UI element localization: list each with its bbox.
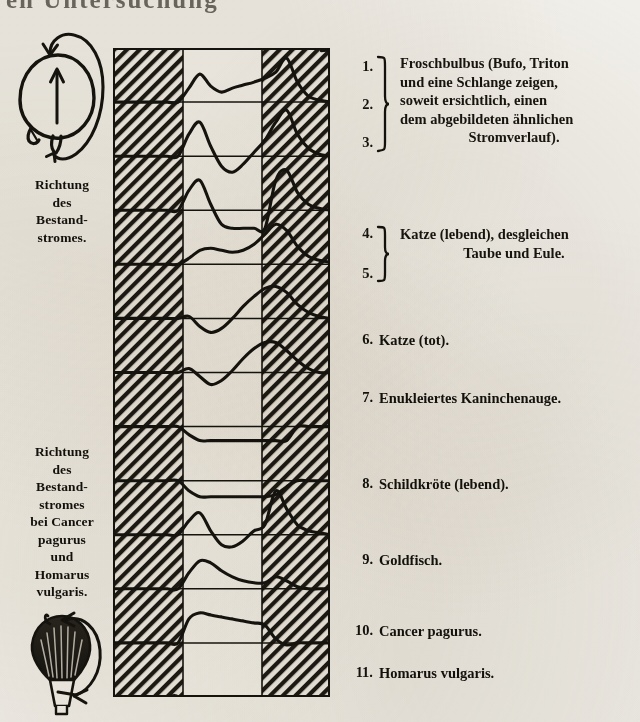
label-text: Goldfisch. (379, 551, 442, 570)
label-number: 11. (331, 664, 373, 681)
caption-line: Homarus (2, 566, 122, 584)
label-number: 4. (347, 225, 373, 242)
label-text: Cancer pagurus. (379, 622, 482, 641)
caption-line: vulgaris. (2, 583, 122, 601)
label-number: 8. (347, 475, 373, 492)
caption-line: Bestand- (2, 478, 122, 496)
species-label-list: 1. 2. 3. Froschbulbus (Bufo, Triton und … (347, 48, 640, 698)
crustacean-eye-current-diagram (8, 600, 116, 722)
label-number: 10. (331, 622, 373, 639)
caption-direction-standing-current-crustacea: Richtung des Bestand- stromes bei Cancer… (2, 443, 122, 601)
label-text-line: und eine Schlange zeigen, (400, 73, 628, 92)
caption-line: und (2, 548, 122, 566)
caption-line: Richtung (2, 176, 122, 194)
label-text-line: Froschbulbus (Bufo, Triton (400, 54, 628, 73)
caption-line: pagurus (2, 531, 122, 549)
label-number: 1. (347, 58, 373, 75)
caption-line: des (2, 194, 122, 212)
label-text: Katze (tot). (379, 331, 449, 350)
label-text: Schildkröte (lebend). (379, 475, 509, 494)
label-number: 7. (347, 389, 373, 406)
label-text-line: Stromverlauf). (400, 128, 628, 147)
label-text-line: Taube und Eule. (400, 244, 628, 263)
caption-line: bei Cancer (2, 513, 122, 531)
label-text: Enukleiertes Kaninchenauge. (379, 389, 561, 408)
running-head-text: en Untersuchung (6, 0, 330, 14)
brace-icon (375, 54, 391, 154)
brace-icon (375, 225, 391, 283)
running-head: en Untersuchung (0, 0, 330, 16)
caption-direction-standing-current: Richtung des Bestand- stromes. (2, 176, 122, 246)
retinal-current-chart (113, 48, 330, 697)
label-number: 9. (347, 551, 373, 568)
vertebrate-eye-current-diagram (6, 24, 110, 176)
chart-svg (113, 48, 330, 697)
label-number: 3. (347, 134, 373, 151)
label-number: 6. (347, 331, 373, 348)
caption-line: stromes (2, 496, 122, 514)
label-text-line: dem abgebildeten ähnlichen (400, 110, 628, 129)
caption-line: des (2, 461, 122, 479)
label-text-line: Katze (lebend), desgleichen (400, 225, 628, 244)
caption-line: Richtung (2, 443, 122, 461)
caption-line: stromes. (2, 229, 122, 247)
label-text: Homarus vulgaris. (379, 664, 494, 683)
label-number: 2. (347, 96, 373, 113)
label-number: 5. (347, 265, 373, 282)
caption-line: Bestand- (2, 211, 122, 229)
label-text-line: soweit ersichtlich, einen (400, 91, 628, 110)
